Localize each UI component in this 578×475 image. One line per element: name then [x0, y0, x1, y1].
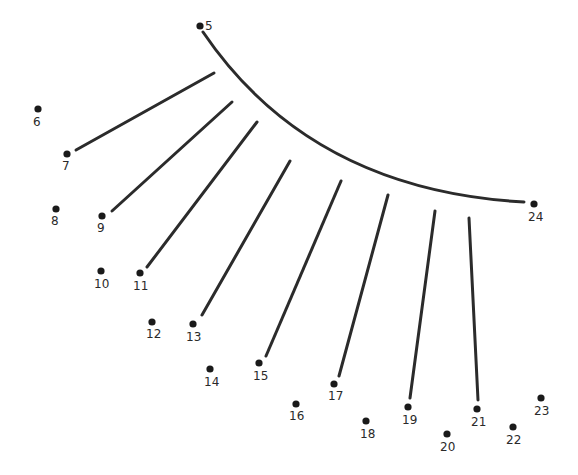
dot-number-label: 5	[205, 20, 213, 32]
stroke-line	[202, 161, 290, 315]
drawing-layer	[0, 0, 578, 475]
dot-number-label: 18	[360, 428, 375, 440]
dot-point	[404, 403, 411, 410]
dot-point	[196, 22, 203, 29]
dot-point	[97, 267, 104, 274]
stroke-line	[410, 211, 435, 398]
dot-number-label: 9	[97, 222, 105, 234]
dot-point	[362, 417, 369, 424]
dot-number-label: 6	[33, 116, 41, 128]
dot-to-dot-canvas: 56789101112131415161718192021222324	[0, 0, 578, 475]
dot-number-label: 13	[186, 331, 201, 343]
dot-point	[148, 318, 155, 325]
dot-number-label: 17	[328, 390, 343, 402]
stroke-line	[469, 218, 478, 400]
dot-number-label: 8	[51, 215, 59, 227]
dot-point	[530, 200, 537, 207]
dot-point	[509, 423, 516, 430]
dot-number-label: 23	[534, 405, 549, 417]
dot-point	[255, 359, 262, 366]
dot-number-label: 14	[204, 376, 219, 388]
dot-number-label: 19	[402, 414, 417, 426]
dot-point	[136, 269, 143, 276]
dot-number-label: 16	[289, 410, 304, 422]
dot-number-label: 10	[94, 278, 109, 290]
dot-point	[189, 320, 196, 327]
dot-number-label: 24	[528, 211, 543, 223]
dot-point	[330, 380, 337, 387]
dot-number-label: 15	[253, 370, 268, 382]
stroke-line	[339, 195, 388, 376]
dot-point	[98, 212, 105, 219]
dot-number-label: 20	[440, 441, 455, 453]
dot-number-label: 21	[471, 416, 486, 428]
dot-point	[34, 105, 41, 112]
dot-number-label: 7	[62, 160, 70, 172]
dot-point	[206, 365, 213, 372]
dot-number-label: 12	[146, 328, 161, 340]
stroke-line	[266, 181, 341, 356]
arc-line	[203, 32, 524, 202]
dot-point	[63, 150, 70, 157]
dot-point	[52, 205, 59, 212]
dot-point	[443, 430, 450, 437]
dot-point	[537, 394, 544, 401]
dot-point	[473, 405, 480, 412]
dot-number-label: 22	[506, 434, 521, 446]
dot-number-label: 11	[133, 280, 148, 292]
dot-point	[292, 400, 299, 407]
